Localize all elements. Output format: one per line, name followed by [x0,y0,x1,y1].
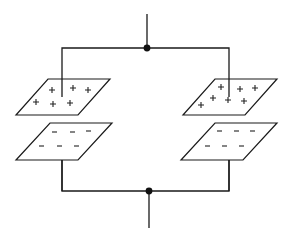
bottom-junction-dot [146,188,153,195]
parallel-capacitor-diagram [0,0,292,240]
top-junction-dot [144,45,151,52]
left-negative-plate [16,123,112,160]
bottom-lead [62,150,229,228]
right-negative-plate [181,123,277,160]
left-positive-plate [16,79,110,115]
right-positive-plate [183,79,277,115]
right-capacitor [181,79,277,160]
left-capacitor [16,79,112,160]
diagram-canvas [0,0,292,240]
